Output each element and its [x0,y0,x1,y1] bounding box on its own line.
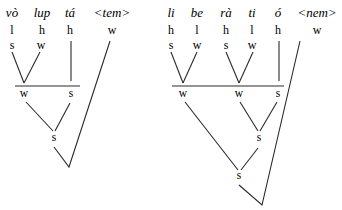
left-tree: vò lup tá <tem> l h h w s w w s s [6,5,130,167]
stress-label: s [10,38,15,52]
syllable-word: be [191,5,204,20]
tone-label: h [39,23,45,37]
syllable-word: <nem> [297,5,336,20]
branch-line [260,102,277,131]
tone-label: h [223,23,229,37]
node-label: w [20,87,29,99]
branch-line [239,52,253,83]
branch-line [12,52,24,83]
syllable-word: lup [34,5,51,20]
tone-label: h [67,23,73,37]
branch-line [240,102,258,131]
tone-label: w [108,23,117,37]
branch-line [241,148,258,170]
branch-line [55,103,70,131]
prosodic-tree-diagram: vò lup tá <tem> l h h w s w w s s li be … [0,0,342,210]
node-label: w [179,87,188,99]
tone-label: l [195,23,199,37]
stress-label: s [169,38,174,52]
syllable-word: li [167,5,175,20]
node-label: s [52,131,57,143]
syllable-word: tá [65,5,76,20]
tone-label: l [10,23,14,37]
node-label: s [257,131,262,143]
tone-label: l [250,23,254,37]
right-tree: li be rà ti ó <nem> h l h l h w s w s w … [167,5,336,205]
branch-line [171,52,183,83]
node-label: w [235,87,244,99]
stress-label: w [193,38,202,52]
node-label: s [276,87,281,99]
node-label: s [237,169,242,181]
branch-line [239,41,300,205]
node-label: s [69,87,74,99]
syllable-word: ti [248,5,256,20]
syllable-word: rà [220,5,232,20]
stress-label: s [224,38,229,52]
tone-label: h [168,23,174,37]
branch-line [26,102,53,131]
branch-line [185,102,238,170]
syllable-word: <tem> [94,5,130,20]
tone-label: w [313,23,322,37]
tone-label: h [275,23,281,37]
syllable-word: ó [275,5,282,20]
stress-label: w [248,38,257,52]
syllable-word: vò [6,5,19,20]
branch-line [226,52,239,83]
stress-label: w [37,38,46,52]
branch-line [54,41,110,167]
branch-line [183,52,197,83]
branch-line [24,52,40,83]
